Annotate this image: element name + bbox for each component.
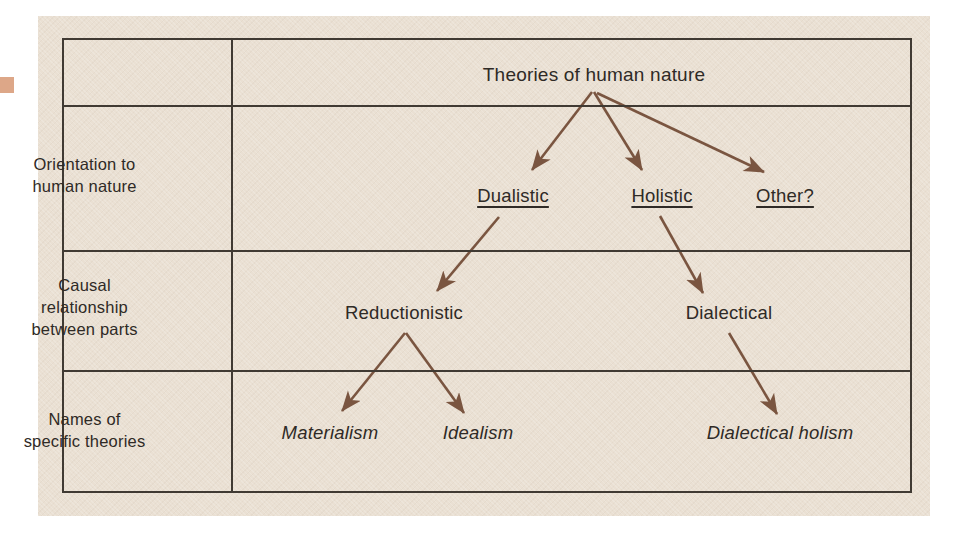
node-reductionistic: Reductionistic bbox=[345, 302, 463, 324]
node-holistic: Holistic bbox=[631, 185, 692, 207]
row-label-orientation-line1: Orientation to bbox=[32, 154, 136, 176]
row-divider-3 bbox=[64, 370, 910, 372]
row-divider-1 bbox=[64, 105, 910, 107]
node-other: Other? bbox=[756, 185, 814, 207]
row-label-causal: Causal relationship between parts bbox=[0, 248, 169, 368]
node-dialectical-holism: Dialectical holism bbox=[707, 422, 854, 444]
row-divider-2 bbox=[64, 250, 910, 252]
node-theories-of-human-nature: Theories of human nature bbox=[483, 64, 705, 86]
row-label-causal-line1: Causal bbox=[31, 275, 137, 297]
column-divider bbox=[231, 40, 233, 491]
row-label-orientation: Orientation to human nature bbox=[0, 103, 169, 248]
row-label-names-line1: Names of bbox=[24, 409, 146, 431]
node-materialism: Materialism bbox=[282, 422, 379, 444]
scan-artifact-mark bbox=[0, 77, 14, 93]
row-label-names: Names of specific theories bbox=[0, 368, 169, 493]
row-label-causal-line3: between parts bbox=[31, 319, 137, 341]
figure-root: Orientation to human nature Causal relat… bbox=[0, 0, 973, 544]
row-label-causal-line2: relationship bbox=[31, 297, 137, 319]
node-idealism: Idealism bbox=[443, 422, 514, 444]
row-label-names-line2: specific theories bbox=[24, 431, 146, 453]
node-dialectical: Dialectical bbox=[686, 302, 773, 324]
node-dualistic: Dualistic bbox=[477, 185, 549, 207]
row-label-orientation-line2: human nature bbox=[32, 176, 136, 198]
